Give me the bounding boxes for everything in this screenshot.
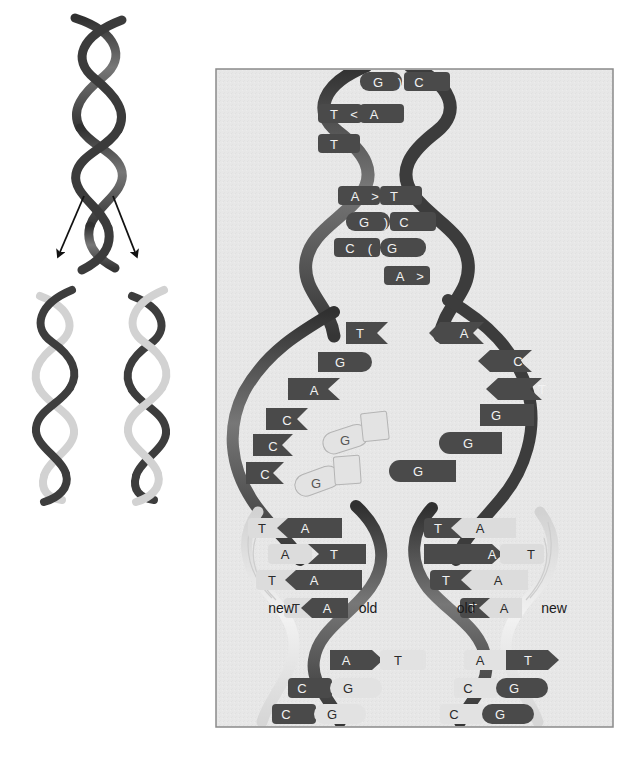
base-link: ) bbox=[384, 215, 388, 230]
base-letter: G bbox=[413, 464, 423, 479]
base-letter: T bbox=[527, 547, 535, 562]
base-letter: T bbox=[356, 326, 364, 341]
base-letter: C bbox=[297, 681, 306, 696]
base-letter: A bbox=[476, 653, 485, 668]
base-letter: T bbox=[258, 521, 266, 536]
base-letter: C bbox=[282, 413, 291, 428]
base-letter: G bbox=[327, 707, 337, 722]
base-letter: A bbox=[323, 601, 332, 616]
base-letter: A bbox=[281, 547, 290, 562]
base-letter: C bbox=[281, 707, 290, 722]
base-letter: T bbox=[538, 382, 546, 397]
base-letter: G bbox=[311, 476, 321, 491]
base-letter: A bbox=[342, 653, 351, 668]
base-letter: T bbox=[268, 573, 276, 588]
base-letter: C bbox=[449, 707, 458, 722]
base-letter: A bbox=[494, 573, 503, 588]
label-new-left: new bbox=[268, 600, 295, 616]
base-letter: A bbox=[310, 573, 319, 588]
label-old-right: old bbox=[457, 600, 476, 616]
detail-panel: G ) C T < A T A > T bbox=[216, 66, 613, 727]
base-letter: C bbox=[268, 439, 277, 454]
base-letter: G bbox=[491, 408, 501, 423]
base-letter: C bbox=[345, 241, 354, 256]
base-letter: C bbox=[260, 467, 269, 482]
base-letter: A bbox=[488, 547, 497, 562]
base-letter: A bbox=[500, 601, 509, 616]
base-letter: C bbox=[399, 215, 408, 230]
base-letter: T bbox=[330, 547, 338, 562]
base-letter: A bbox=[310, 383, 319, 398]
base-link: < bbox=[350, 107, 358, 122]
base-link: > bbox=[371, 189, 379, 204]
base-letter: G bbox=[343, 681, 353, 696]
base-letter: T bbox=[434, 521, 442, 536]
label-old-left: old bbox=[359, 600, 378, 616]
base-letter: A bbox=[460, 326, 469, 341]
base-letter: G bbox=[495, 707, 505, 722]
base-letter: G bbox=[359, 215, 369, 230]
base-letter: A bbox=[370, 107, 379, 122]
detail-panel-background bbox=[216, 69, 613, 727]
base-letter: G bbox=[340, 433, 350, 448]
base-letter: C bbox=[463, 681, 472, 696]
base-letter: A bbox=[301, 521, 310, 536]
label-new-right: new bbox=[541, 600, 568, 616]
base-letter: C bbox=[414, 75, 423, 90]
base-letter: T bbox=[524, 653, 532, 668]
base-letter: C bbox=[513, 354, 522, 369]
dna-replication-figure: G ) C T < A T A > T bbox=[0, 0, 631, 764]
base-letter: T bbox=[442, 573, 450, 588]
base-letter: T bbox=[330, 137, 338, 152]
base-letter: G bbox=[335, 355, 345, 370]
base-link: ( bbox=[368, 241, 373, 256]
base-letter: G bbox=[373, 75, 383, 90]
base-letter: T bbox=[390, 189, 398, 204]
base-letter: A bbox=[351, 189, 360, 204]
base-link: ) bbox=[398, 75, 402, 90]
base-letter: A bbox=[396, 269, 405, 284]
base-letter: T bbox=[330, 107, 338, 122]
base-letter: G bbox=[509, 681, 519, 696]
base-letter: A bbox=[476, 521, 485, 536]
base-letter: T bbox=[394, 653, 402, 668]
base-letter: G bbox=[387, 241, 397, 256]
base-link: > bbox=[416, 269, 424, 284]
base-letter: G bbox=[463, 436, 473, 451]
